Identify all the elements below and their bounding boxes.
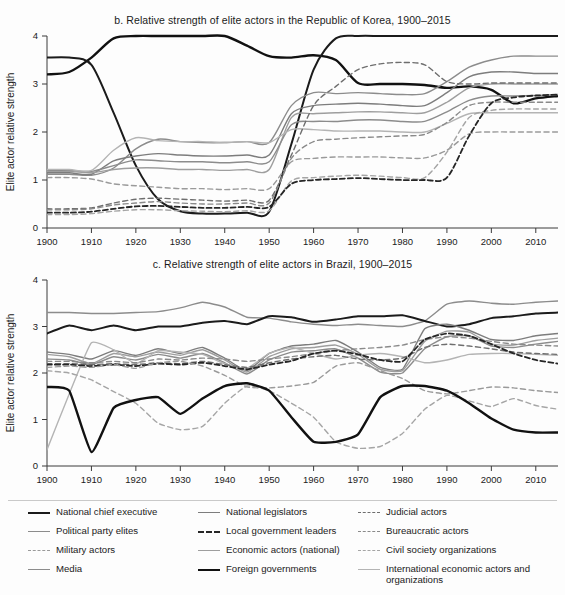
svg-text:1930: 1930 <box>170 236 191 247</box>
svg-text:4: 4 <box>33 274 38 285</box>
legend-label: Judicial actors <box>386 506 447 517</box>
korea-chart-svg: 0123419001910192019301940195019601970198… <box>0 30 565 258</box>
svg-text:1900: 1900 <box>36 474 57 485</box>
svg-text:1910: 1910 <box>81 474 102 485</box>
legend-divider <box>8 500 557 501</box>
legend-item-media[interactable]: Media <box>28 563 198 582</box>
svg-text:1910: 1910 <box>81 236 102 247</box>
legend-swatch-civil_society_organizations <box>358 546 380 556</box>
svg-text:1920: 1920 <box>125 236 146 247</box>
legend-item-political_party_elites[interactable]: Political party elites <box>28 525 198 544</box>
legend-item-international_economic_actors[interactable]: International economic actors and organi… <box>358 563 558 593</box>
panel-b-plot: 0123419001910192019301940195019601970198… <box>0 30 565 258</box>
legend-item-bureaucratic_actors[interactable]: Bureaucratic actors <box>358 525 558 544</box>
legend-label: Media <box>56 563 82 574</box>
legend-swatch-political_party_elites <box>28 527 50 537</box>
brazil-chart-svg: 0123419001910192019301940195019601970198… <box>0 274 565 496</box>
svg-text:1960: 1960 <box>303 474 324 485</box>
legend-item-local_government_leaders[interactable]: Local government leaders <box>198 525 358 544</box>
legend-swatch-judicial_actors <box>358 508 380 518</box>
legend-swatch-international_economic_actors <box>358 565 380 575</box>
figure-page: b. Relative strength of elite actors in … <box>0 0 565 595</box>
legend-swatch-media <box>28 565 50 575</box>
legend-label: Local government leaders <box>226 525 336 536</box>
svg-text:Elite actor relative strength: Elite actor relative strength <box>5 73 16 191</box>
svg-text:1980: 1980 <box>392 474 413 485</box>
svg-text:1920: 1920 <box>125 474 146 485</box>
legend-label: National chief executive <box>56 506 157 517</box>
legend-label: Military actors <box>56 544 115 555</box>
legend-swatch-local_government_leaders <box>198 527 220 537</box>
legend-item-judicial_actors[interactable]: Judicial actors <box>358 506 558 525</box>
svg-text:Elite actor relative strength: Elite actor relative strength <box>5 314 16 432</box>
svg-text:2010: 2010 <box>525 474 546 485</box>
svg-text:1: 1 <box>33 414 38 425</box>
series-line-bureaucratic_actors <box>47 102 558 210</box>
panel-b-title: b. Relative strength of elite actors in … <box>0 14 565 26</box>
legend-swatch-economic_actors_national <box>198 546 220 556</box>
legend-column-3: Judicial actorsBureaucratic actorsCivil … <box>358 506 558 593</box>
series-line-military_actors <box>47 361 558 394</box>
legend-label: Bureaucratic actors <box>386 525 469 536</box>
svg-text:1990: 1990 <box>436 474 457 485</box>
panel-korea: b. Relative strength of elite actors in … <box>0 14 565 259</box>
legend-item-military_actors[interactable]: Military actors <box>28 544 198 563</box>
legend-label: National legislators <box>226 506 307 517</box>
svg-text:1990: 1990 <box>436 236 457 247</box>
panel-c-title: c. Relative strength of elite actors in … <box>0 258 565 270</box>
legend-swatch-foreign_governments <box>198 565 220 575</box>
legend-swatch-national_chief_executive <box>28 508 50 518</box>
svg-text:2: 2 <box>33 126 38 137</box>
series-line-civil_society_organizations <box>47 109 558 215</box>
legend-item-national_chief_executive[interactable]: National chief executive <box>28 506 198 525</box>
legend-item-foreign_governments[interactable]: Foreign governments <box>198 563 358 582</box>
legend-item-economic_actors_national[interactable]: Economic actors (national) <box>198 544 358 563</box>
svg-text:1900: 1900 <box>36 236 57 247</box>
series-line-foreign_governments <box>47 35 558 103</box>
legend-label: Civil society organizations <box>386 544 496 555</box>
legend-swatch-national_legislators <box>198 508 220 518</box>
legend-label: Political party elites <box>56 525 138 536</box>
svg-text:4: 4 <box>33 30 38 41</box>
svg-text:3: 3 <box>33 78 38 89</box>
svg-text:2010: 2010 <box>525 236 546 247</box>
panel-brazil: c. Relative strength of elite actors in … <box>0 258 565 498</box>
svg-text:1: 1 <box>33 174 38 185</box>
legend-swatch-bureaucratic_actors <box>358 527 380 537</box>
series-line-civil_society_organizations <box>47 371 558 449</box>
svg-text:1970: 1970 <box>347 236 368 247</box>
svg-text:2: 2 <box>33 367 38 378</box>
legend-column-1: National chief executivePolitical party … <box>28 506 198 582</box>
legend-item-national_legislators[interactable]: National legislators <box>198 506 358 525</box>
legend: National chief executivePolitical party … <box>0 500 565 595</box>
legend-column-2: National legislatorsLocal government lea… <box>198 506 358 582</box>
svg-text:2000: 2000 <box>481 474 502 485</box>
svg-text:1980: 1980 <box>392 236 413 247</box>
series-line-foreign_governments <box>47 383 558 452</box>
legend-swatch-military_actors <box>28 546 50 556</box>
svg-text:0: 0 <box>33 460 38 471</box>
svg-text:1950: 1950 <box>259 236 280 247</box>
svg-text:1930: 1930 <box>170 474 191 485</box>
svg-text:1950: 1950 <box>259 474 280 485</box>
legend-item-civil_society_organizations[interactable]: Civil society organizations <box>358 544 558 563</box>
svg-text:1970: 1970 <box>347 474 368 485</box>
svg-text:1940: 1940 <box>214 236 235 247</box>
svg-text:1940: 1940 <box>214 474 235 485</box>
legend-label: Foreign governments <box>226 563 317 574</box>
svg-text:1960: 1960 <box>303 236 324 247</box>
legend-label: International economic actors and organi… <box>386 563 558 585</box>
series-line-political_party_elites <box>47 301 558 327</box>
panel-c-plot: 0123419001910192019301940195019601970198… <box>0 274 565 496</box>
legend-label: Economic actors (national) <box>226 544 340 555</box>
svg-text:2000: 2000 <box>481 236 502 247</box>
svg-text:3: 3 <box>33 321 38 332</box>
svg-text:0: 0 <box>33 222 38 233</box>
